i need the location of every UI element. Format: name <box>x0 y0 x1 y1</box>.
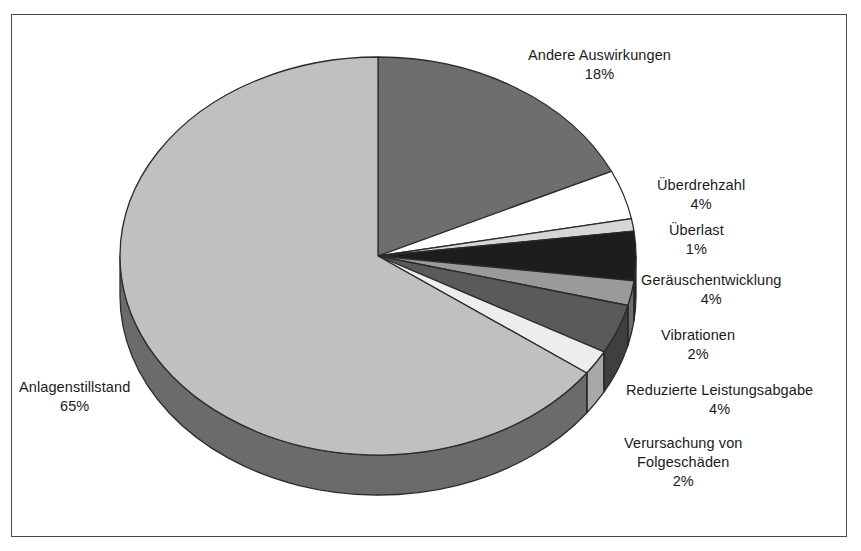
callout-anlagenstillstand: Anlagenstillstand 65% <box>19 378 130 416</box>
callout-ueberlast: Überlast 1% <box>669 221 724 259</box>
callout-anlagenstillstand-pct: 65% <box>19 397 130 416</box>
callout-geraeuschentwicklung-pct: 4% <box>641 290 782 309</box>
callout-geraeuschentwicklung: Geräuschentwicklung 4% <box>641 271 782 309</box>
callout-andere-auswirkungen: Andere Auswirkungen 18% <box>528 46 671 84</box>
callout-reduzierte-leistungsabgabe-pct: 4% <box>626 400 813 419</box>
callout-verursachung-folgeschaeden-pct: 2% <box>624 472 743 491</box>
callout-ueberdrehzahl-name: Überdrehzahl <box>657 177 745 193</box>
callout-geraeuschentwicklung-name: Geräuschentwicklung <box>641 272 782 288</box>
callout-ueberlast-pct: 1% <box>669 240 724 259</box>
callout-verursachung-folgeschaeden-name-line1: Verursachung von <box>624 435 743 451</box>
callout-reduzierte-leistungsabgabe-name: Reduzierte Leistungsabgabe <box>626 382 813 398</box>
callout-andere-auswirkungen-name: Andere Auswirkungen <box>528 47 671 63</box>
callout-vibrationen-name: Vibrationen <box>661 327 735 343</box>
pie-chart-figure: Andere Auswirkungen 18% Überdrehzahl 4% … <box>0 0 861 551</box>
callout-vibrationen-pct: 2% <box>661 345 735 364</box>
callout-ueberdrehzahl-pct: 4% <box>657 195 745 214</box>
callout-ueberdrehzahl: Überdrehzahl 4% <box>657 176 745 214</box>
callout-anlagenstillstand-name: Anlagenstillstand <box>19 379 130 395</box>
callout-andere-auswirkungen-pct: 18% <box>528 65 671 84</box>
callout-reduzierte-leistungsabgabe: Reduzierte Leistungsabgabe 4% <box>626 381 813 419</box>
callout-vibrationen: Vibrationen 2% <box>661 326 735 364</box>
callout-verursachung-folgeschaeden: Verursachung von Folgeschäden 2% <box>624 434 743 491</box>
callout-verursachung-folgeschaeden-name-line2: Folgeschäden <box>624 453 743 472</box>
callout-ueberlast-name: Überlast <box>669 222 724 238</box>
